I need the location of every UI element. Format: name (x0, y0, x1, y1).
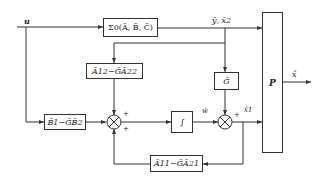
p-transform-block: P (262, 12, 283, 153)
b-gain-block: B̄1−ḠB̄2 (44, 114, 86, 130)
w-hat-label: ŵ (202, 108, 208, 115)
a11-gain-block: Ā11−ḠĀ21 (150, 155, 203, 172)
x-hat-output-label: x̂ (292, 71, 297, 79)
integrator-block: ∫ (171, 111, 193, 133)
a12-gain-block: Ā12−ḠĀ22 (86, 63, 143, 79)
input-u-label: u (24, 17, 30, 25)
g-gain-block: Ḡ (214, 72, 239, 90)
sum2-plus: + (234, 112, 240, 119)
plant-output-label: ȳ, x̄2 (212, 17, 231, 25)
x1-hat-label: x̂1 (244, 107, 252, 114)
sum1-plus-bottom: + (123, 126, 129, 133)
plant-block: Σ0(Ā, B̄, C̄) (103, 18, 158, 37)
sum1-plus-top: + (123, 111, 129, 118)
